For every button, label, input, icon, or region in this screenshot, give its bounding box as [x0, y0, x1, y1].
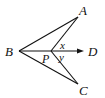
label-b: B [5, 44, 13, 59]
segment-pc [51, 51, 78, 84]
geometry-diagram: A B C P D x y [0, 0, 105, 98]
label-a: A [78, 3, 87, 18]
segment-ba [19, 17, 78, 51]
arrowhead-icon [77, 49, 84, 54]
angle-y-label: y [58, 51, 64, 63]
label-p: P [41, 52, 50, 66]
label-c: C [79, 83, 88, 98]
angle-x-label: x [59, 39, 65, 51]
label-d: D [87, 44, 98, 59]
